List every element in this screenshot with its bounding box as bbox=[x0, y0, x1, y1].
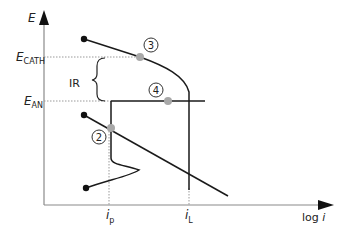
y-axis-label: E bbox=[28, 11, 36, 25]
point-2 bbox=[107, 124, 115, 132]
ir-brace bbox=[92, 58, 105, 101]
diagonal-line bbox=[84, 115, 228, 196]
polarization-diagram: 3 4 2 E log i ECATH EAN IR ip iL bbox=[0, 0, 349, 233]
ip-label: ip bbox=[106, 208, 114, 225]
y-axis-arrow-icon bbox=[39, 10, 49, 25]
curve-endpoint bbox=[81, 112, 87, 118]
e-an-label: EAN bbox=[24, 94, 43, 110]
curve-endpoint bbox=[81, 36, 87, 42]
point-4 bbox=[164, 97, 172, 105]
marker-4-label: 4 bbox=[153, 85, 159, 96]
ir-label: IR bbox=[69, 77, 80, 90]
point-3 bbox=[136, 53, 144, 61]
e-cath-label: ECATH bbox=[16, 50, 45, 66]
anodic-passive-curve bbox=[86, 101, 139, 188]
marker-2-label: 2 bbox=[96, 132, 102, 143]
x-axis-arrow-icon bbox=[318, 200, 334, 210]
il-label: iL bbox=[185, 208, 193, 225]
x-axis-label: log i bbox=[302, 211, 325, 224]
cathodic-curve bbox=[84, 39, 189, 190]
marker-3-label: 3 bbox=[148, 40, 154, 51]
curve-endpoint bbox=[83, 185, 89, 191]
